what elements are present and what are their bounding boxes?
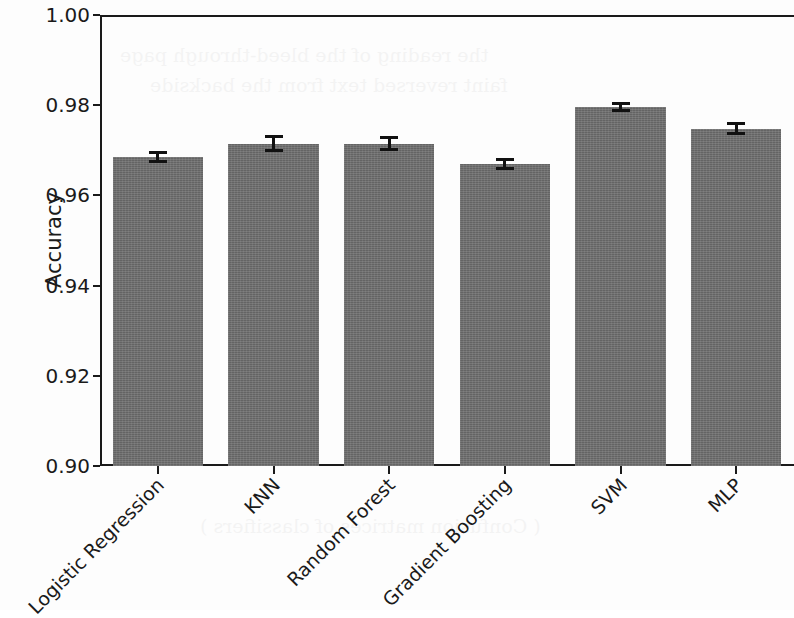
error-bar-cap-top xyxy=(380,136,398,139)
x-tick-label-svm: SVM xyxy=(587,475,630,518)
y-tick-label: 0.94 xyxy=(45,276,90,296)
x-tick-label-random-forest: Random Forest xyxy=(284,475,399,590)
bar-texture xyxy=(113,157,203,466)
x-tick-mark xyxy=(273,466,275,474)
x-tick-mark xyxy=(504,466,506,474)
x-tick-mark xyxy=(620,466,622,474)
y-tick-mark xyxy=(93,104,100,106)
error-bar-cap-top xyxy=(612,102,630,105)
x-tick-mark xyxy=(157,466,159,474)
bar-texture xyxy=(691,129,781,466)
axis-spine-bottom xyxy=(100,464,794,466)
y-tick-mark xyxy=(93,375,100,377)
y-tick-mark xyxy=(93,194,100,196)
bar-random-forest xyxy=(344,144,434,466)
y-tick-mark xyxy=(93,285,100,287)
axis-spine-top xyxy=(100,15,794,17)
error-bar-cap-top xyxy=(727,122,745,125)
bar-texture xyxy=(228,144,318,466)
x-tick-mark xyxy=(735,466,737,474)
axis-spine-left xyxy=(100,15,102,466)
x-tick-label-mlp: MLP xyxy=(705,475,746,516)
y-tick-label: 0.98 xyxy=(45,95,90,115)
x-tick-mark xyxy=(388,466,390,474)
x-tick-label-knn: KNN xyxy=(241,475,283,517)
bar-texture xyxy=(344,144,434,466)
bar-mlp xyxy=(691,129,781,466)
error-bar-cap-top xyxy=(496,158,514,161)
bar-logistic-regression xyxy=(113,157,203,466)
bar-gradient-boosting xyxy=(460,164,550,466)
y-tick-label: 0.96 xyxy=(45,185,90,205)
x-tick-label-gradient-boosting: Gradient Boosting xyxy=(379,475,514,610)
x-tick-label-logistic-regression: Logistic Regression xyxy=(25,475,167,617)
bar-texture xyxy=(460,164,550,466)
y-tick-mark xyxy=(93,465,100,467)
bar-svm xyxy=(575,107,665,466)
y-tick-label: 1.00 xyxy=(45,5,90,25)
error-bar-cap-top xyxy=(149,151,167,154)
bar-texture xyxy=(575,107,665,466)
y-tick-label: 0.92 xyxy=(45,366,90,386)
error-bar-cap-top xyxy=(265,135,283,138)
bleed-through-artifact-3: ( Confusion matrices of classifiers ) xyxy=(200,515,541,537)
plot-area: 0.900.920.940.960.981.00 xyxy=(100,15,794,466)
bar-knn xyxy=(228,144,318,466)
y-tick-label: 0.90 xyxy=(45,456,90,476)
y-tick-mark xyxy=(93,14,100,16)
